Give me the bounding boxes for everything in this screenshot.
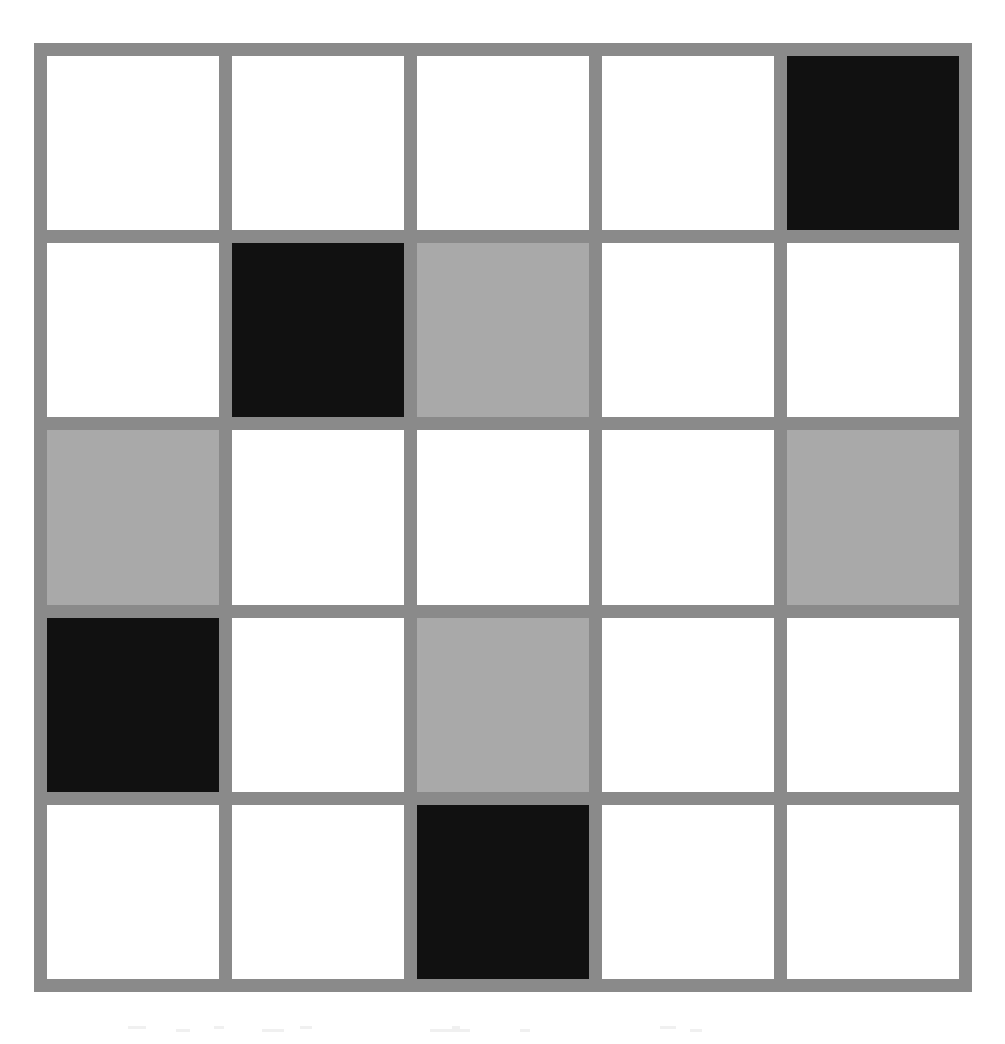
grid-cell-r3-c2[interactable] [232,430,404,604]
grid-cell-r3-c5[interactable] [787,430,959,604]
scan-speck [520,1029,530,1032]
scan-speck [300,1026,312,1029]
scan-speck [452,1026,460,1029]
scan-speck [176,1029,190,1032]
grid-cell-r1-c2[interactable] [232,56,404,230]
grid-cell-r4-c1[interactable] [47,618,219,792]
grid-cell-r1-c5[interactable] [787,56,959,230]
grid-cell-r4-c4[interactable] [602,618,774,792]
grid-cell-r3-c3[interactable] [417,430,589,604]
grid-cell-r5-c1[interactable] [47,805,219,979]
scan-speck [214,1026,224,1029]
grid-cell-r2-c2[interactable] [232,243,404,417]
grid-cell-r3-c1[interactable] [47,430,219,604]
grid-cell-r2-c5[interactable] [787,243,959,417]
scan-speck [690,1029,702,1032]
grid-cell-r4-c5[interactable] [787,618,959,792]
grid-cell-r5-c5[interactable] [787,805,959,979]
page-canvas [0,0,1005,1044]
grid-cell-r3-c4[interactable] [602,430,774,604]
grid-cell-r2-c4[interactable] [602,243,774,417]
scan-speck [262,1029,284,1032]
scan-artifact-strip [0,1014,1005,1044]
grid-cell-r5-c3[interactable] [417,805,589,979]
scan-speck [128,1026,146,1029]
grid-cell-r4-c3[interactable] [417,618,589,792]
grid-cell-r1-c3[interactable] [417,56,589,230]
grid-cell-r1-c4[interactable] [602,56,774,230]
grid-cell-r2-c3[interactable] [417,243,589,417]
grid-cell-r1-c1[interactable] [47,56,219,230]
scan-speck [660,1026,676,1029]
grid-cell-r4-c2[interactable] [232,618,404,792]
scan-speck [430,1029,470,1032]
grid-cell-r2-c1[interactable] [47,243,219,417]
grid-figure [34,43,972,992]
grid-cell-r5-c2[interactable] [232,805,404,979]
grid-cell-r5-c4[interactable] [602,805,774,979]
